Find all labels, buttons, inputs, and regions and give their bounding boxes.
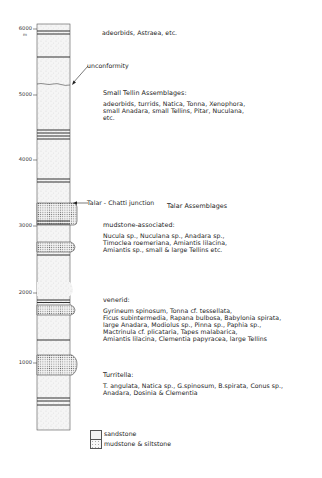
sandstone-layer-4 (37, 355, 77, 375)
unconformity-arrow (73, 66, 88, 83)
turritella-header: Turritella: (103, 372, 134, 379)
junction-label: Talar - Chatti junction (87, 199, 154, 206)
depth-ticks (33, 29, 37, 363)
mudstone-header: mudstone-associated: (103, 222, 175, 229)
small-tellin-line: etc. (103, 114, 115, 121)
turritella-line: Anadara, Dosinia & Clementia (103, 389, 198, 396)
small-tellin-header: Small Tellin Assemblages: (103, 90, 187, 97)
venerid-line: Amiantis lilacina, Clementia papyracea, … (103, 335, 267, 342)
small-tellin-line: small Anadara, small Tellins, Pitar, Nuc… (103, 107, 244, 114)
mudstone-swatch (90, 439, 102, 449)
unconformity-label: unconformity (87, 62, 129, 69)
legend-mudstone-label: mudstone & siltstone (104, 440, 171, 447)
tick-5000: 5000 (6, 91, 32, 97)
sandstone-layer-2 (37, 242, 75, 252)
tick-3000: 3000 (6, 222, 32, 228)
venerid-header: venerid: (103, 297, 130, 304)
tick-1000: 1000 (6, 359, 32, 365)
sandstone-layer-3 (37, 305, 75, 315)
legend-sandstone-label: sandstone (104, 430, 136, 437)
unit-label: m (23, 32, 27, 37)
tick-4000: 4000 (6, 156, 32, 162)
talar-assemblages-title: Talar Assemblages (167, 203, 227, 210)
tick-2000: 2000 (6, 289, 32, 295)
mudstone-line: Amiantis sp., small & large Tellins etc. (103, 246, 222, 253)
tick-6000: 6000 (6, 25, 32, 31)
sandstone-layer-talar (37, 203, 77, 225)
top-assemblage: adeorbids, Astraea, etc. (102, 29, 177, 36)
